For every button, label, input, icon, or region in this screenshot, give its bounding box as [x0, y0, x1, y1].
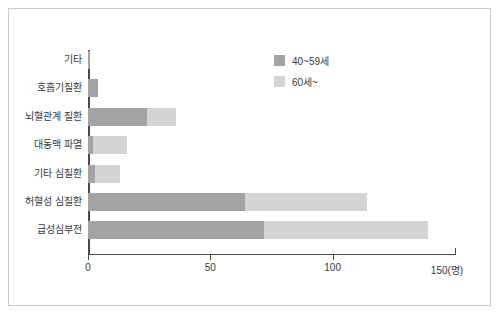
x-tick-label: 150(명) — [431, 262, 463, 277]
y-axis-label-2: 호흡기질환 — [0, 82, 82, 94]
bar-row — [88, 108, 455, 126]
category-label: 뇌혈관계 질환 — [25, 111, 82, 123]
category-label: 기타 — [64, 54, 82, 66]
category-label: 대동맥 파열 — [34, 139, 82, 151]
category-label: 허혈성 심질환 — [25, 196, 82, 208]
bar-segment-60plus — [95, 165, 119, 183]
category-label: 호흡기질환 — [37, 82, 82, 94]
legend-item-40-59[interactable]: 40~59세 — [274, 52, 329, 69]
bar-segment-40-59 — [88, 165, 95, 183]
y-axis-label-4: 대동맥 파열 — [0, 139, 82, 151]
y-axis-label-7: 급성심부전 — [0, 224, 82, 236]
y-axis-label-1: 기타 — [0, 54, 82, 66]
bar-segment-40-59 — [88, 193, 245, 211]
y-axis-label-5: 기타 심질환 — [0, 168, 82, 180]
bar-segment-60plus — [147, 108, 176, 126]
bar-segment-60plus — [264, 221, 428, 239]
bar-row — [88, 79, 455, 97]
x-tick-mark — [455, 248, 456, 255]
bar-row — [88, 136, 455, 154]
legend-swatch-60plus — [274, 76, 285, 87]
legend-label-40-59: 40~59세 — [292, 53, 329, 68]
bar-row — [88, 221, 455, 239]
x-tick-mark — [333, 255, 334, 260]
bar-segment-40-59 — [88, 108, 147, 126]
legend-swatch-40-59 — [274, 55, 285, 66]
legend-label-60plus: 60세~ — [292, 74, 318, 89]
x-tick-label: 50 — [205, 262, 216, 273]
category-label: 기타 심질환 — [34, 168, 82, 180]
y-axis-label-6: 허혈성 심질환 — [0, 196, 82, 208]
y-axis-label-3: 뇌혈관계 질환 — [0, 111, 82, 123]
bar-segment-60plus — [93, 136, 127, 154]
chart-figure: 050100150(명) 기타호흡기질환뇌혈관계 질환대동맥 파열기타 심질환허… — [0, 0, 499, 314]
x-tick-label: 0 — [85, 262, 91, 273]
category-label: 급성심부전 — [37, 224, 82, 236]
legend-item-60plus[interactable]: 60세~ — [274, 73, 329, 90]
bar-segment-60plus — [245, 193, 367, 211]
x-axis-line — [88, 254, 456, 255]
bar-segment-40-59 — [88, 221, 264, 239]
x-tick-label: 100 — [324, 262, 341, 273]
chart-legend: 40~59세 60세~ — [274, 52, 329, 94]
bar-row — [88, 193, 455, 211]
bar-row — [88, 51, 455, 69]
bar-segment-40-59 — [88, 51, 90, 69]
bar-row — [88, 165, 455, 183]
x-tick-mark — [210, 255, 211, 260]
bar-segment-40-59 — [88, 79, 98, 97]
x-tick-mark — [88, 255, 89, 260]
